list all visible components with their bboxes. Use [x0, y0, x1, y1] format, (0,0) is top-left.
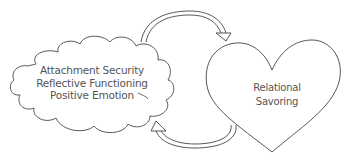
cloud-line-positive-emotion: Positive Emotion	[30, 89, 154, 102]
cloud-line-attachment-security: Attachment Security	[30, 64, 154, 77]
heart-line-savoring: Savoring	[237, 95, 317, 109]
arrow-heart-to-cloud	[151, 121, 236, 148]
arrow-cloud-to-heart	[141, 11, 231, 42]
heart-line-relational: Relational	[237, 81, 317, 95]
cloud-line-reflective-functioning: Reflective Functioning	[30, 77, 154, 90]
cloud-label: Attachment Security Reflective Functioni…	[30, 64, 154, 102]
heart-label: Relational Savoring	[237, 81, 317, 109]
